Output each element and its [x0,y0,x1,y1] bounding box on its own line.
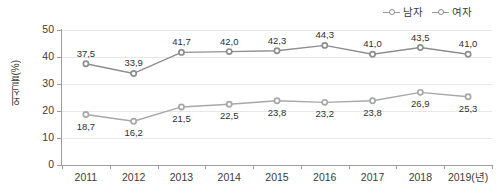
data-point-label: 42,0 [220,37,239,47]
data-point-label: 41,0 [459,39,478,49]
data-point-marker[interactable] [466,52,471,57]
data-point-marker[interactable] [83,112,88,117]
data-point-label: 44,3 [316,30,335,40]
data-point-marker[interactable] [466,94,471,99]
data-point-marker[interactable] [131,71,136,76]
data-point-label: 42,3 [268,36,287,46]
data-point-marker[interactable] [274,98,279,103]
data-point-marker[interactable] [418,45,423,50]
data-point-label: 41,7 [172,37,191,47]
data-point-marker[interactable] [83,61,88,66]
data-point-marker[interactable] [322,100,327,105]
data-point-marker[interactable] [322,43,327,48]
data-point-marker[interactable] [131,119,136,124]
data-point-marker[interactable] [227,102,232,107]
data-point-label: 41,0 [363,39,382,49]
data-point-label: 23,8 [268,108,287,118]
chart-series-svg [0,0,501,193]
data-point-label: 43,5 [411,33,430,43]
data-point-label: 26,9 [411,99,430,109]
data-point-label: 25,3 [459,104,478,114]
data-point-label: 37,5 [77,49,96,59]
data-point-label: 23,2 [316,109,335,119]
data-point-label: 18,7 [77,122,96,132]
chart-screenshot: 남자 여자 외식률(%) 01020304050 201120122013201… [0,0,501,193]
data-point-marker[interactable] [274,48,279,53]
data-point-label: 22,5 [220,111,239,121]
data-point-marker[interactable] [227,49,232,54]
data-point-marker[interactable] [179,104,184,109]
data-point-label: 21,5 [172,114,191,124]
data-point-label: 16,2 [124,128,143,138]
data-point-marker[interactable] [370,52,375,57]
data-point-label: 33,9 [124,58,143,68]
data-point-label: 23,8 [363,108,382,118]
data-point-marker[interactable] [370,98,375,103]
data-point-marker[interactable] [179,50,184,55]
data-point-marker[interactable] [418,90,423,95]
plot-wrapper: 01020304050 2011201220132014201520162017… [0,0,501,193]
